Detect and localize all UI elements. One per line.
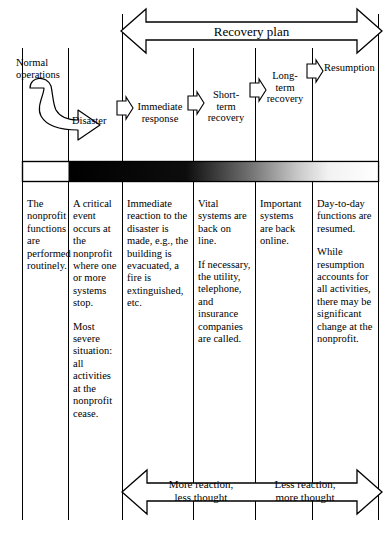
- immediate-response-label-line1: Immediate: [138, 101, 183, 112]
- more-reaction-line2: less thought: [175, 491, 228, 503]
- resumption-label: Resumption: [324, 62, 384, 74]
- column-text-normal-operations: The nonprofit functions are performed ro…: [27, 198, 65, 272]
- immediate-response-label-line2: response: [142, 113, 179, 124]
- long-term-recovery-label: Long- term recovery: [260, 70, 310, 105]
- long-term-recovery-label-line1: Long-: [272, 70, 298, 81]
- column-text-short-term-recovery: Vital systems are back on line.If necess…: [198, 198, 251, 345]
- column-text-resumption: Day-to-day functions are resumed.While r…: [317, 198, 375, 345]
- normal-operations-curved-arrow: [30, 78, 100, 140]
- column-text-long-term-recovery: Important systems are back online.: [260, 198, 308, 248]
- short-term-recovery-label-line1: Short-: [213, 89, 239, 100]
- more-reaction-line1: More reaction,: [169, 478, 234, 490]
- immediate-response-label: Immediate response: [131, 101, 189, 124]
- recovery-plan-diagram: Recovery plan Normal operations Disaster…: [0, 0, 387, 540]
- less-reaction-line1: Less reaction,: [274, 478, 335, 490]
- less-reaction-line2: more thought: [276, 491, 335, 503]
- column-paragraph: If necessary, the utility, telephone, an…: [198, 259, 251, 346]
- more-reaction-less-thought-label: More reaction, less thought: [150, 478, 252, 504]
- column-paragraph: Day-to-day functions are resumed.: [317, 198, 375, 235]
- column-paragraph: The nonprofit functions are performed ro…: [27, 198, 65, 272]
- short-term-recovery-label-line2: term: [216, 101, 235, 112]
- normal-operations-label-line1: Normal: [16, 57, 48, 68]
- severity-gradient-bar: [23, 162, 379, 182]
- column-text-immediate-response: Immediate reaction to the disaster is ma…: [127, 198, 189, 310]
- short-term-recovery-label: Short- term recovery: [200, 89, 252, 124]
- less-reaction-more-thought-label: Less reaction, more thought: [254, 478, 356, 504]
- recovery-plan-label: Recovery plan: [146, 24, 357, 40]
- disaster-label: Disaster: [72, 115, 118, 127]
- short-term-recovery-label-line3: recovery: [208, 112, 245, 123]
- long-term-recovery-label-line2: term: [275, 82, 294, 93]
- column-paragraph: Most severe situation: all activities at…: [73, 321, 118, 420]
- normal-operations-label-line2: operations: [16, 69, 60, 80]
- column-text-disaster: A critical event occurs at the nonprofit…: [73, 198, 118, 420]
- column-paragraph: While resumption accounts for all activi…: [317, 246, 375, 345]
- long-term-recovery-label-line3: recovery: [267, 93, 304, 104]
- column-paragraph: Vital systems are back on line.: [198, 198, 251, 248]
- normal-operations-label: Normal operations: [16, 57, 72, 80]
- column-paragraph: Immediate reaction to the disaster is ma…: [127, 198, 189, 310]
- column-paragraph: Important systems are back online.: [260, 198, 308, 248]
- column-paragraph: A critical event occurs at the nonprofit…: [73, 198, 118, 310]
